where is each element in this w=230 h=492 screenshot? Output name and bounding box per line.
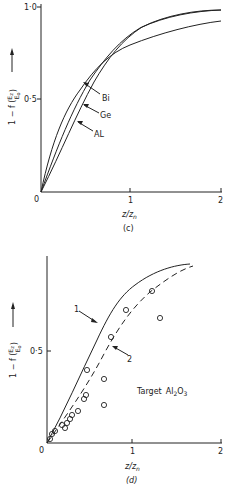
label-ge: Ge <box>100 111 111 120</box>
data-point <box>62 425 67 430</box>
xtick-label-2-c: 2 <box>218 196 223 205</box>
xtick-label-2-d: 2 <box>218 447 223 456</box>
arrowhead-icon <box>91 318 98 323</box>
data-point <box>59 422 64 427</box>
arrow-up-icon <box>11 302 15 309</box>
ytick-label-1-c: 1·0 <box>24 3 37 12</box>
curve-ge <box>41 10 221 192</box>
curve-al <box>41 10 221 192</box>
curve-1 <box>47 264 190 443</box>
data-point <box>123 307 128 312</box>
ytick-label-05-c: 0·5 <box>24 95 37 104</box>
label-curve-1: 1 <box>74 305 79 314</box>
label-al: AL <box>94 130 104 139</box>
panel-label-d: (d) <box>126 476 137 485</box>
arrowhead-icon <box>112 346 118 350</box>
chart-d: 0·5 0 1 2 z/zn (d) 1 − f (EzEo) 1 2 <box>7 256 223 485</box>
svg-text:1 − f (EzEo): 1 − f (EzEo) <box>7 342 22 378</box>
arrow-up-icon <box>10 48 14 55</box>
svg-text:1 − f (EzEo): 1 − f (EzEo) <box>6 89 21 125</box>
ylabel-d: 1 − f (EzEo) <box>7 342 22 378</box>
xtick-label-1-d: 1 <box>130 447 135 456</box>
ylabel-c: 1 − f (EzEo) <box>6 89 21 125</box>
xtick-label-1-c: 1 <box>128 196 133 205</box>
data-point <box>84 367 89 372</box>
origin-label-d: 0 <box>39 446 44 455</box>
data-point <box>108 334 113 339</box>
xlabel-d: z/zn <box>124 462 140 472</box>
data-point <box>157 315 162 320</box>
label-bi: Bi <box>102 94 110 103</box>
figure: 1·0 0·5 0 1 2 z/zn (c) 1 − f (EzEo) Bi G… <box>0 0 230 492</box>
label-curve-2: 2 <box>127 355 132 364</box>
ytick-label-05-d: 0·5 <box>30 347 43 356</box>
data-point <box>101 376 106 381</box>
origin-label-c: 0 <box>34 195 39 204</box>
data-point <box>75 408 80 413</box>
scatter-points <box>47 288 162 441</box>
data-point <box>101 402 106 407</box>
curve-bi <box>41 21 221 192</box>
panel-label-c: (c) <box>123 224 134 233</box>
target-label: TargetAl2O3 <box>136 387 188 397</box>
chart-c: 1·0 0·5 0 1 2 z/zn (c) 1 − f (EzEo) Bi G… <box>6 3 223 233</box>
xlabel-c: z/zn <box>121 210 137 220</box>
